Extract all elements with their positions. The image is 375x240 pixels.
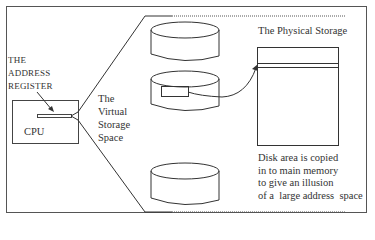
disk-1 <box>151 22 219 61</box>
register-label-line-2: ADDRESS <box>8 67 53 80</box>
physical-storage-label: The Physical Storage <box>258 26 347 37</box>
address-register <box>38 115 72 118</box>
cpu-box <box>13 101 79 144</box>
caption: Disk area is copied in to main memory to… <box>258 152 363 202</box>
address-register-label: THE ADDRESS REGISTER <box>8 54 53 93</box>
physical-storage-box <box>258 48 339 146</box>
disk-3 <box>151 163 219 205</box>
fan-junction-down <box>71 116 78 120</box>
caption-line-3: to give an illusion <box>258 177 363 190</box>
virtual-label-line-2: Virtual <box>98 105 130 118</box>
virtual-label-line-4: Space <box>98 131 130 144</box>
register-label-line-3: REGISTER <box>8 80 53 93</box>
virtual-label-line-3: Storage <box>98 118 130 131</box>
disk-2 <box>151 71 219 111</box>
virtual-label-line-1: The <box>98 92 130 105</box>
cpu-label: CPU <box>24 127 44 138</box>
fan-junction-up <box>71 112 78 116</box>
disk-area-highlight <box>162 87 189 97</box>
register-label-line-1: THE <box>8 54 53 67</box>
caption-line-2: in to main memory <box>258 165 363 178</box>
caption-line-1: Disk area is copied <box>258 152 363 165</box>
caption-line-4: of a large address space <box>258 190 363 203</box>
copy-arrow-line <box>188 68 256 97</box>
virtual-storage-label: The Virtual Storage Space <box>98 92 130 144</box>
